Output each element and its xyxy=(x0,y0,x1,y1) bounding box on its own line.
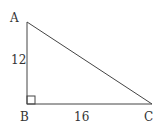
side-label-bc: 16 xyxy=(74,110,89,124)
vertex-label-b: B xyxy=(20,110,29,124)
triangle-diagram: A B C 12 16 xyxy=(0,0,163,129)
side-label-ab: 12 xyxy=(11,53,26,67)
right-angle-marker xyxy=(27,96,35,104)
triangle-abc xyxy=(27,22,152,104)
vertex-label-c: C xyxy=(144,110,153,124)
vertex-label-a: A xyxy=(9,11,19,25)
